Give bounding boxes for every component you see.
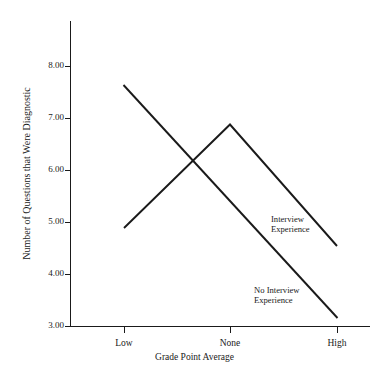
x-axis-title: Grade Point Average xyxy=(0,352,389,362)
y-tick-label-wrap: 6.00 xyxy=(28,165,64,174)
x-tick-label-high: High xyxy=(328,338,347,348)
chart-figure: 8.00 7.00 6.00 5.00 4.00 3.00 Low None H… xyxy=(0,0,389,384)
y-tick-label: 8.00 xyxy=(48,61,64,70)
series-annotation-no-interview-experience: No Interview Experience xyxy=(254,285,300,305)
y-tick-label-wrap: 3.00 xyxy=(28,321,64,330)
y-tick-label-wrap: 7.00 xyxy=(28,113,64,122)
series-annotation-interview-experience: Interview Experience xyxy=(271,214,310,234)
y-tick-label: 3.00 xyxy=(48,321,64,330)
y-tick-label-wrap: 8.00 xyxy=(28,61,64,70)
y-tick-label: 5.00 xyxy=(48,217,64,226)
y-tick-label-wrap: 5.00 xyxy=(28,217,64,226)
y-axis-title: Number of Questions that Were Diagnostic xyxy=(21,64,32,284)
x-tick-label-low: Low xyxy=(115,338,132,348)
x-tick-label-none: None xyxy=(220,338,241,348)
y-tick-label: 6.00 xyxy=(48,165,64,174)
series-line-no-interview-experience xyxy=(124,85,338,318)
y-tick-label-wrap: 4.00 xyxy=(28,269,64,278)
y-tick-label: 4.00 xyxy=(48,269,64,278)
y-tick-label: 7.00 xyxy=(48,113,64,122)
